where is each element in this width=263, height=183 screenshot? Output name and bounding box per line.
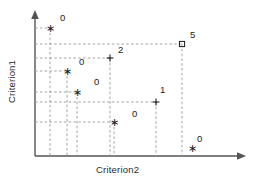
point-value-label: 0 (94, 76, 99, 87)
plot-canvas: ∗∗∗∗∗ (0, 0, 263, 183)
star-marker-icon: ∗ (63, 65, 72, 77)
star-marker-icon: ∗ (73, 86, 82, 98)
star-marker-icon: ∗ (46, 22, 55, 34)
point-value-label: 1 (160, 84, 165, 95)
star-marker-icon: ∗ (188, 142, 197, 154)
point-value-label: 0 (197, 133, 202, 144)
plus-marker-icon (107, 55, 114, 62)
axes-group (31, 10, 246, 160)
point-value-label: 2 (118, 44, 123, 55)
point-value-label: 5 (190, 29, 195, 40)
x-axis-arrowhead (237, 152, 246, 160)
plus-marker-icon (153, 99, 160, 106)
y-axis-arrowhead (31, 10, 39, 19)
star-marker-icon: ∗ (110, 116, 119, 128)
point-value-label: 0 (132, 108, 137, 119)
point-value-label: 0 (79, 56, 84, 67)
point-value-label: 0 (60, 12, 65, 23)
x-axis-label: Criterion2 (96, 164, 139, 175)
data-markers-group: ∗∗∗∗∗ (46, 22, 197, 154)
scatter-plot-figure: ∗∗∗∗∗ Criterion1 Criterion2 05200100 (0, 0, 263, 183)
y-axis-label: Criterion1 (6, 50, 17, 114)
